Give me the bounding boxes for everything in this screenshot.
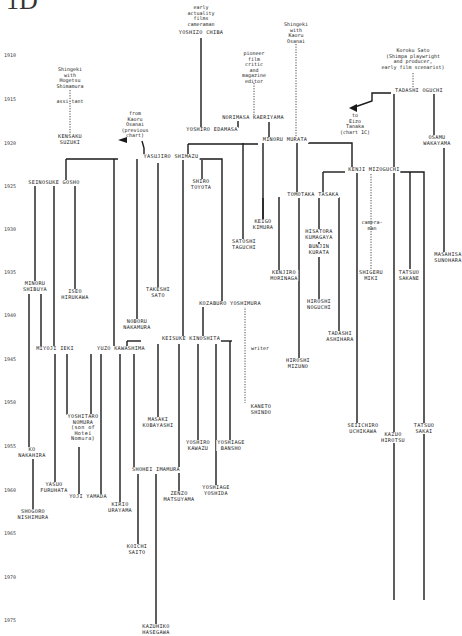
person-yoshiage-bansho: YOSHIAGE BANSHO	[216, 440, 245, 451]
person-takeshi-sato: TAKESHI SATO	[145, 287, 171, 298]
year-tick-label: 1920	[4, 140, 16, 146]
person-minoru-murata: MINORU MURATA	[262, 137, 309, 143]
person-bunjin-kurata: BUNJIN KURATA	[308, 244, 331, 255]
to-tanaka-arrow-icon	[349, 104, 357, 112]
person-tatsuo-sakane: TATSUO SAKANE	[398, 270, 421, 281]
year-tick-label: 1915	[4, 96, 16, 102]
person-kensaku-suzuki: KENSAKU SUZUKI	[57, 134, 83, 145]
note-cameraman: camera- man	[361, 220, 382, 231]
person-hisatora-kumagaya: HISATORA KUMAGAYA	[304, 229, 333, 240]
person-masaki-kobayashi: MASAKI KOBAYASHI	[142, 417, 175, 428]
person-shohei-imamura: SHOHEI IMAMURA	[131, 467, 181, 473]
note-shingeki-shimamura: Shingeki with Hogetsu Shimamura	[56, 67, 83, 89]
person-yoshiro-edamasa: YOSHIRO EDAMASA	[185, 127, 238, 133]
person-yuzo-kawashima: YUZO KAWASHIMA	[96, 346, 146, 352]
note-to-tanaka: to Eizo Tanaka (chart 1C)	[340, 113, 370, 135]
year-tick-label: 1910	[4, 52, 16, 58]
person-iseo-hirukawa: ISEO HIRUKAWA	[60, 289, 89, 300]
person-kirio-urayama: KIRIO URAYAMA	[107, 502, 133, 513]
person-keisuke-kinoshita: KEISUKE KINOSHITA	[161, 336, 221, 342]
person-tomotaka-tasaka: TOMOTAKA TASAKA	[286, 192, 339, 198]
year-tick-label: 1960	[4, 487, 16, 493]
person-yoshiage-yoshida: YOSHIAGE YOSHIDA	[201, 485, 230, 496]
lineage-chart	[0, 0, 462, 636]
person-norimasa-kaeriyama: NORIMASA KAERIYAMA	[221, 115, 285, 121]
year-tick-label: 1945	[4, 356, 16, 362]
chart-number-label: 1D	[6, 0, 38, 16]
year-tick-label: 1970	[4, 574, 16, 580]
person-masahisa-sunohara: MASAHISA SUNOHARA	[433, 252, 462, 263]
person-koichi-saito: KOICHI SAITO	[126, 544, 149, 555]
person-shogoro-nishimura: SHOGORO NISHIMURA	[17, 509, 50, 520]
year-tick-label: 1925	[4, 183, 16, 189]
person-ko-nakahira: KO NAKAHIRA	[17, 447, 46, 458]
person-kozaburo-yoshimura: KOZABURO YOSHIMURA	[198, 301, 262, 307]
person-kaneto-shindo: KANETO SHINDO	[250, 404, 273, 415]
person-minoru-shibuya: MINORU SHIBUYA	[22, 281, 48, 292]
note-assistant: assi-tant	[56, 99, 83, 105]
note-from-osanai: from Kaoru Osanai (previous chart)	[121, 111, 148, 139]
year-tick-label: 1965	[4, 530, 16, 536]
person-tatsuo-sakai: TATSUO SAKAI	[413, 423, 436, 434]
person-shigeru-miki: SHIGERU MIKI	[358, 270, 384, 281]
year-tick-label: 1975	[4, 617, 16, 623]
year-tick-label: 1950	[4, 399, 16, 405]
lineage-line	[352, 93, 391, 108]
person-kenji-mizoguchi: KENJI MIZOGUCHI	[347, 167, 400, 173]
person-shiro-toyota: SHIRO TOYOTA	[190, 179, 213, 190]
person-osamu-wakayama: OSAMU WAKAYAMA	[422, 135, 451, 146]
person-yoji-yamada: YOJI YAMADA	[68, 494, 108, 500]
person-yoshitaro-nomura: YOSHITARO NOMURA (son of Hotei Nomura)	[67, 414, 100, 442]
person-tadashi-oguchi: TADASHI OGUCHI	[394, 88, 444, 94]
person-seiichiro-uchikawa: SEIICHIRO UCHIKAWA	[347, 423, 380, 434]
person-kenjiro-morinaga: KENJIRO MORINAGA	[269, 270, 298, 281]
lineage-line	[308, 143, 352, 167]
note-writer: writer	[251, 346, 269, 352]
person-hiroshi-noguchi: HIROSHI NOGUCHI	[306, 299, 332, 310]
person-yasujiro-shimazu: YASUJIRO SHIMAZU	[143, 154, 200, 160]
person-kazuo-hirotsu: KAZUO HIROTSU	[380, 432, 406, 443]
person-satoshi-taguchi: SATOSHI TAGUCHI	[231, 239, 257, 250]
year-tick-label: 1955	[4, 443, 16, 449]
person-kazuhiko-hasegawa: KAZUHIKO HASEGAWA	[141, 624, 170, 635]
note-shingeki-osanai: Shingeki with Kaoru Osanai	[284, 22, 308, 44]
note-early-actuality: early actuality films cameraman	[187, 5, 214, 27]
person-keigo-kimura: KEIGO KIMURA	[252, 219, 275, 230]
person-noboru-nakamura: NOBORU NAKAMURA	[122, 319, 151, 330]
person-yoshizo-chiba: YOSHIZO CHIBA	[178, 30, 225, 36]
person-yoshiro-kawazu: YOSHIRO KAWAZU	[185, 440, 211, 451]
person-yasuo-furuhata: YASUO FURUHATA	[39, 482, 68, 493]
person-seinosuke-gosho: SEINOSUKE GOSHO	[27, 180, 80, 186]
note-pioneer-critic: pioneer film critic and magazine editor	[242, 51, 266, 85]
person-miyoji-ieki: MIYOJI IEKI	[35, 346, 75, 352]
year-tick-label: 1940	[4, 312, 16, 318]
year-tick-label: 1935	[4, 269, 16, 275]
person-tadashi-ashihara: TADASHI ASHIHARA	[325, 331, 354, 342]
person-hiroshi-mizuno: HIROSHI MIZUNO	[285, 358, 311, 369]
year-tick-label: 1930	[4, 226, 16, 232]
person-zenzo-matsuyama: ZENZO MATSUYAMA	[163, 491, 196, 502]
note-koroku-sato: Koroku Sato (Shimpa playwright and produ…	[381, 48, 444, 70]
